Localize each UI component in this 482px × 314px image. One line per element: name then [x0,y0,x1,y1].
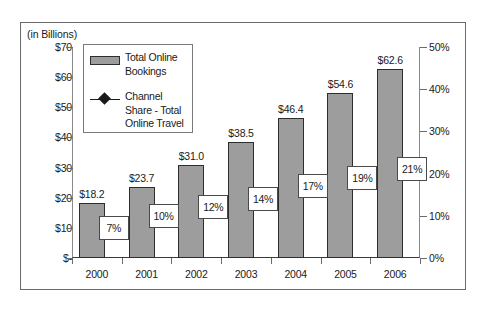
y-right-tick-label: 20% [429,168,449,180]
x-axis-label: 2006 [365,268,425,280]
x-axis-tick [271,258,272,264]
y-left-tick [66,47,73,48]
bar-value-label: $54.6 [312,78,368,90]
legend-label-channel-share: ChannelShare - TotalOnline Travel [125,90,184,131]
x-axis-tick [171,258,172,264]
y-right-tick-label: 10% [429,210,449,222]
bar-value-label: $62.6 [362,54,418,66]
line-value-callout: 7% [99,216,129,240]
y-left-tick-label: $60 [24,71,72,83]
y-right-tick-label: 0% [429,252,444,264]
line-value-callout: 21% [397,157,427,181]
y-left-tick-label: $70 [24,41,72,53]
bar-swatch-icon [90,56,120,65]
y-left-tick [66,228,73,229]
y-right-tick [420,216,427,217]
x-axis-tick [122,258,123,264]
chart-figure: (in Billions) $-$10$20$30$40$50$60$70 0%… [0,0,482,314]
y-right-tick-label: 50% [429,41,449,53]
y-left-tick [66,168,73,169]
y-left-tick-label: $30 [24,162,72,174]
legend-label-bookings: Total OnlineBookings [125,51,177,78]
y-left-tick-label: $10 [24,222,72,234]
y-axis-right: 0%10%20%30%40%50% [420,0,472,314]
y-right-tick [420,131,427,132]
y-left-tick [66,77,73,78]
line-value-callout: 17% [298,174,328,198]
y-left-tick-label: $- [24,252,72,264]
bar-value-label: $46.4 [263,103,319,115]
x-axis-tick [221,258,222,264]
y-right-tick [420,89,427,90]
line-value-callout: 12% [198,195,228,219]
y-right-tick-label: 40% [429,83,449,95]
y-left-tick-label: $40 [24,131,72,143]
x-axis-tick [370,258,371,264]
y-right-tick [420,47,427,48]
line-value-callout: 14% [248,187,278,211]
y-right-tick-label: 30% [429,125,449,137]
y-axis-left: $-$10$20$30$40$50$60$70 [18,0,72,314]
chart-legend: Total OnlineBookings ChannelShare - Tota… [83,44,193,133]
line-value-callout: 19% [347,166,377,190]
diamond-marker-icon [98,92,111,105]
x-axis-tick [72,258,73,264]
bar-value-label: $23.7 [114,172,170,184]
x-axis-tick [420,258,421,264]
y-left-tick-label: $50 [24,101,72,113]
line-value-callout: 10% [149,204,179,228]
y-left-tick [66,107,73,108]
bar-value-label: $38.5 [213,127,269,139]
y-right-tick [420,258,427,259]
x-axis-tick [321,258,322,264]
y-left-tick [66,137,73,138]
bar-value-label: $31.0 [163,150,219,162]
bar-value-label: $18.2 [64,188,120,200]
